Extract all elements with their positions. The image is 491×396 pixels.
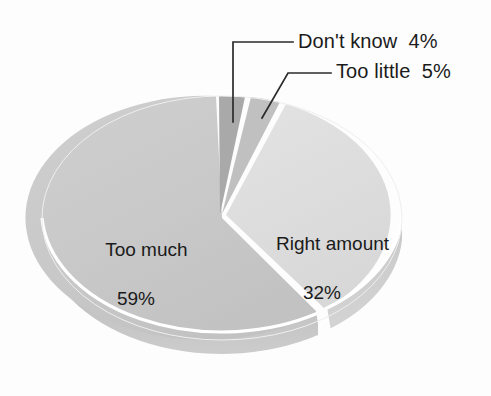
slice-label-too-much: Too much 59% — [70, 214, 202, 360]
callout-leader-lines — [233, 42, 331, 122]
slice-label-right-amount: Right amount 32% — [246, 208, 398, 354]
slice-label-right-amount-percent: 32% — [246, 281, 398, 305]
slice-label-too-much-name: Too much — [105, 239, 187, 260]
slice-callout-label-dont-know: Don't know 4% — [298, 30, 438, 53]
slice-callout-label-too-little: Too little 5% — [336, 60, 451, 83]
slice-label-right-amount-name: Right amount — [276, 233, 389, 254]
slice-label-too-much-percent: 59% — [70, 287, 202, 311]
pie-chart-figure: Don't know 4% Too little 5% Too much 59%… — [0, 0, 491, 396]
